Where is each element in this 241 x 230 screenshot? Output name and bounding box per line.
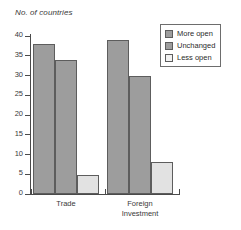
bar xyxy=(129,76,151,195)
y-axis-tick: 15 xyxy=(25,134,30,135)
legend-item: More open xyxy=(165,29,215,38)
y-axis-tick-label: 25 xyxy=(15,90,23,98)
chart-legend: More openUnchangedLess open xyxy=(160,24,221,67)
bar xyxy=(33,44,55,194)
y-axis-tick-label: 30 xyxy=(15,71,23,79)
y-axis-tick-label: 35 xyxy=(15,51,23,59)
bar-chart-figure: No. of countries 0510152025303540 TradeF… xyxy=(0,0,241,230)
bar xyxy=(151,162,173,194)
y-axis-tick: 20 xyxy=(25,115,30,116)
group-label-foreign-investment: Foreign Investment xyxy=(105,199,175,218)
legend-item-label: More open xyxy=(177,29,213,38)
y-axis-tick: 40 xyxy=(25,36,30,37)
bar xyxy=(107,40,129,194)
legend-item: Unchanged xyxy=(165,41,215,50)
y-axis-title: No. of countries xyxy=(15,8,73,17)
y-axis-tick: 0 xyxy=(25,194,30,195)
legend-swatch-icon xyxy=(165,42,173,50)
legend-item: Less open xyxy=(165,53,215,62)
y-axis-tick-label: 20 xyxy=(15,110,23,118)
x-axis-tick xyxy=(179,189,180,195)
y-axis-tick-label: 5 xyxy=(19,169,23,177)
y-axis-tick: 10 xyxy=(25,154,30,155)
y-axis-tick: 30 xyxy=(25,75,30,76)
bar xyxy=(55,60,77,194)
y-axis-tick-label: 0 xyxy=(19,189,23,197)
y-axis-tick: 5 xyxy=(25,174,30,175)
legend-item-label: Less open xyxy=(177,53,212,62)
y-axis-tick-label: 40 xyxy=(15,31,23,39)
y-axis-tick: 25 xyxy=(25,95,30,96)
legend-item-label: Unchanged xyxy=(177,41,215,50)
legend-swatch-icon xyxy=(165,30,173,38)
plot-area xyxy=(31,36,179,194)
x-axis-tick xyxy=(31,189,32,195)
group-label-trade: Trade xyxy=(31,199,101,209)
legend-swatch-icon xyxy=(165,54,173,62)
x-axis-tick xyxy=(105,189,106,195)
y-axis-tick-label: 15 xyxy=(15,130,23,138)
bar xyxy=(77,175,99,194)
y-axis-tick-label: 10 xyxy=(15,150,23,158)
y-axis-tick: 35 xyxy=(25,55,30,56)
